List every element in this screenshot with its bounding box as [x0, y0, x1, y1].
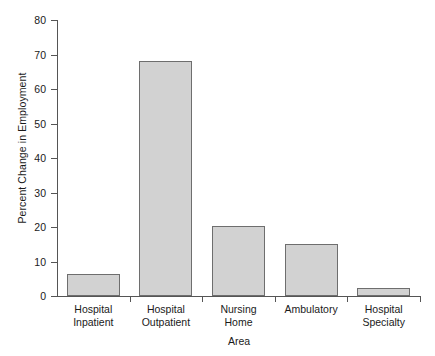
x-axis-category-label-line: Inpatient	[57, 316, 130, 329]
x-axis-category-label-line: Ambulatory	[275, 303, 348, 316]
x-axis-category-label: NursingHome	[202, 303, 275, 329]
y-axis-title: Percent Change in Employment	[14, 0, 30, 296]
y-axis-tick-label: 10	[0, 254, 46, 270]
x-axis-category-label: Ambulatory	[275, 303, 348, 316]
x-axis-line	[57, 296, 421, 297]
x-axis-category-label-line: Hospital	[130, 303, 203, 316]
x-axis-category-label-line: Hospital	[57, 303, 130, 316]
x-axis-category-label: HospitalOutpatient	[130, 303, 203, 329]
bar	[139, 61, 192, 296]
plot-area	[57, 20, 420, 296]
bar	[67, 274, 120, 296]
x-axis-separator-tick	[275, 296, 276, 302]
x-axis-title: Area	[57, 334, 421, 348]
y-axis-tick-label: 80	[0, 12, 46, 28]
bar	[212, 226, 265, 296]
y-axis-tick-label: 0	[0, 288, 46, 304]
y-axis-tick-label: 70	[0, 47, 46, 63]
x-axis-category-label-line: Hospital	[347, 303, 420, 316]
x-axis-category-label-line: Nursing	[202, 303, 275, 316]
y-axis-tick-label: 40	[0, 150, 46, 166]
bar	[285, 244, 338, 296]
x-axis-separator-tick	[130, 296, 131, 302]
y-axis-tick-label: 20	[0, 219, 46, 235]
x-axis-category-label: HospitalSpecialty	[347, 303, 420, 329]
x-axis-category-label-line: Outpatient	[130, 316, 203, 329]
x-axis-category-label-line: Specialty	[347, 316, 420, 329]
y-axis-tick-label: 30	[0, 185, 46, 201]
y-axis-tick	[51, 296, 57, 297]
x-axis-separator-tick	[347, 296, 348, 302]
bar-chart: Percent Change in Employment 01020304050…	[0, 0, 435, 356]
x-axis-category-label: HospitalInpatient	[57, 303, 130, 329]
x-axis-separator-tick	[420, 296, 421, 302]
y-axis-tick-label: 60	[0, 81, 46, 97]
y-axis-tick-label: 50	[0, 116, 46, 132]
x-axis-separator-tick	[202, 296, 203, 302]
bar	[357, 288, 410, 296]
x-axis-category-label-line: Home	[202, 316, 275, 329]
